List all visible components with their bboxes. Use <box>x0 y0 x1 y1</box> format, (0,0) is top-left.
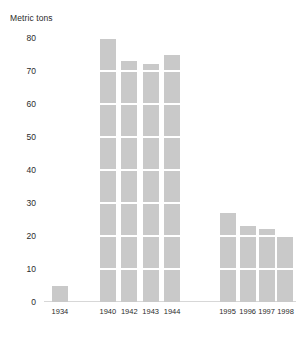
x-axis-tick-label: 1943 <box>142 307 159 316</box>
y-axis: 01020304050607080 <box>0 38 40 302</box>
y-axis-tick-label: 40 <box>27 165 36 175</box>
x-axis-tick-label: 1934 <box>52 307 69 316</box>
y-axis-tick-label: 60 <box>27 99 36 109</box>
x-axis-tick-label: 1998 <box>277 307 294 316</box>
gridline <box>44 202 296 204</box>
y-axis-tick-label: 10 <box>27 264 36 274</box>
gridline <box>44 37 296 39</box>
gridline <box>44 235 296 237</box>
gridline <box>44 169 296 171</box>
plot-area <box>44 38 296 302</box>
y-axis-tick-label: 20 <box>27 231 36 241</box>
x-axis-tick-label: 1997 <box>258 307 275 316</box>
y-axis-tick-label: 30 <box>27 198 36 208</box>
x-axis-tick-label: 1995 <box>219 307 236 316</box>
y-axis-tick-label: 70 <box>27 66 36 76</box>
x-axis-tick-label: 1944 <box>164 307 181 316</box>
y-axis-tick-label: 50 <box>27 132 36 142</box>
y-axis-tick-label: 0 <box>31 297 36 307</box>
x-axis-tick-label: 1996 <box>239 307 256 316</box>
gridlines <box>44 38 296 302</box>
y-axis-tick-label: 80 <box>27 33 36 43</box>
x-axis-tick-label: 1940 <box>99 307 116 316</box>
gridline <box>44 268 296 270</box>
x-axis-tick-label: 1942 <box>121 307 138 316</box>
gridline <box>44 136 296 138</box>
gridline <box>44 70 296 72</box>
chart-axis-title: Metric tons <box>10 13 53 23</box>
gridline <box>44 103 296 105</box>
bar-chart: Metric tons 01020304050607080 1934194019… <box>0 0 302 339</box>
x-axis: 193419401942194319441995199619971998 <box>44 307 296 323</box>
